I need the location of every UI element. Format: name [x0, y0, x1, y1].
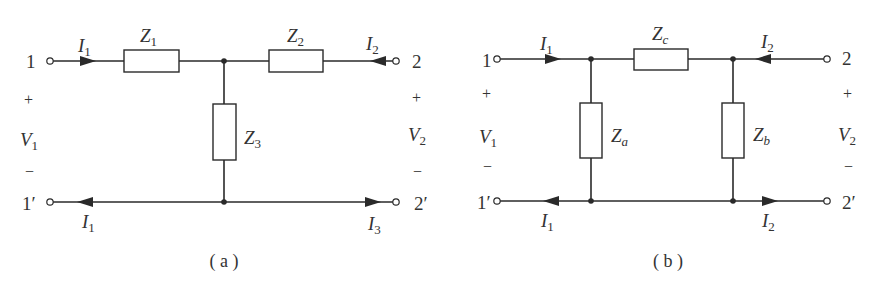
label-za: Za	[611, 125, 629, 149]
label-b-terminal-1prime: 1′	[477, 192, 491, 213]
terminal-b-2	[824, 56, 830, 62]
impedance-za	[580, 103, 602, 158]
terminal-a-1prime	[47, 199, 53, 205]
impedance-z1	[124, 50, 179, 72]
label-b-i2-top: I2	[760, 31, 774, 55]
node-a-top	[221, 58, 227, 64]
label-b-v2: V2	[838, 124, 856, 148]
label-z3: Z3	[244, 127, 261, 151]
label-a-v1-plus: +	[24, 91, 33, 108]
impedance-zb	[722, 103, 744, 158]
label-b-terminal-2: 2	[842, 48, 852, 69]
terminal-a-2prime	[393, 199, 399, 205]
label-a-terminal-2: 2	[412, 51, 422, 72]
label-z1: Z1	[140, 25, 157, 49]
terminal-b-1prime	[494, 198, 500, 204]
impedance-zc	[634, 49, 688, 70]
label-a-i1-bottom: I1	[81, 211, 95, 235]
impedance-z3	[213, 104, 236, 160]
terminal-b-1	[494, 56, 500, 62]
label-b-i2-bottom: I2	[761, 210, 775, 234]
label-z2: Z2	[287, 25, 304, 49]
node-a-bottom	[221, 199, 227, 205]
label-a-i2-top: I2	[365, 33, 379, 57]
label-a-i3-bottom: I3	[367, 213, 381, 237]
label-a-terminal-2prime: 2′	[414, 193, 428, 214]
arrow-right-icon	[762, 196, 778, 206]
arrow-left-icon	[370, 56, 386, 66]
node-b-top-left	[588, 56, 594, 62]
label-a-terminal-1prime: 1′	[22, 193, 36, 214]
label-b-v2-plus: +	[843, 85, 852, 102]
terminal-b-2prime	[824, 198, 830, 204]
label-zc: Zc	[652, 23, 669, 47]
label-b-i1-bottom: I1	[540, 210, 554, 234]
node-b-bottom-left	[588, 198, 594, 204]
label-a-i1-top: I1	[77, 35, 91, 59]
label-a-v2: V2	[408, 124, 426, 148]
arrow-left-icon	[77, 197, 93, 207]
label-zb: Zb	[753, 124, 771, 148]
circuit-figure: Z1 Z2 Z3 I1 I2 I1 I3 1 1′ 2 2′ + V1 − + …	[0, 0, 884, 295]
label-a-terminal-1: 1	[26, 51, 36, 72]
label-b-v1-plus: +	[482, 85, 491, 102]
diagram-b-pi-network: Zc Za Zb I1 I2 I1 I2 1 1′ 2 2′ + V1 − + …	[477, 23, 856, 272]
label-b-v2-minus: −	[844, 158, 853, 175]
arrow-right-icon	[365, 197, 381, 207]
label-a-v2-plus: +	[412, 89, 421, 106]
caption-b: ( b )	[653, 251, 683, 272]
label-b-terminal-2prime: 2′	[842, 192, 856, 213]
label-a-v2-minus: −	[413, 163, 422, 180]
label-b-v1: V1	[479, 126, 497, 150]
label-b-terminal-1: 1	[482, 50, 492, 71]
arrow-left-icon	[755, 54, 771, 64]
label-a-v1: V1	[20, 129, 38, 153]
caption-a: ( a )	[210, 251, 239, 272]
arrow-left-icon	[543, 196, 559, 206]
node-b-bottom-right	[730, 198, 736, 204]
label-a-v1-minus: −	[25, 163, 34, 180]
label-b-v1-minus: −	[483, 158, 492, 175]
terminal-a-1	[47, 58, 53, 64]
diagram-a-t-network: Z1 Z2 Z3 I1 I2 I1 I3 1 1′ 2 2′ + V1 − + …	[20, 25, 428, 272]
terminal-a-2	[393, 58, 399, 64]
impedance-z2	[269, 50, 323, 72]
node-b-top-right	[730, 56, 736, 62]
label-b-i1-top: I1	[539, 33, 553, 57]
